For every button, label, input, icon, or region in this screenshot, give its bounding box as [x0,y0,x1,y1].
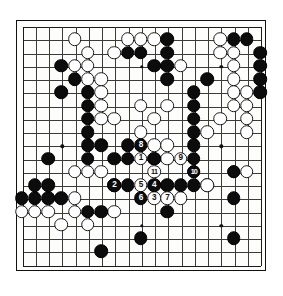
black-stone[interactable] [28,178,42,192]
black-stone[interactable] [81,205,95,219]
white-stone[interactable] [41,205,55,219]
white-stone[interactable] [227,46,241,60]
white-stone[interactable] [161,99,175,113]
white-stone[interactable] [108,205,122,219]
white-stone[interactable] [134,99,148,113]
move-stone-6[interactable]: 6 [134,191,148,205]
white-stone[interactable] [214,46,228,60]
white-stone[interactable] [227,72,241,86]
move-stone-1[interactable]: 1 [134,152,148,166]
move-stone-5[interactable]: 5 [134,178,148,192]
black-stone[interactable] [134,46,148,60]
black-stone[interactable] [81,152,95,166]
white-stone[interactable] [28,205,42,219]
white-stone[interactable] [81,165,95,179]
black-stone[interactable] [15,191,29,205]
white-stone[interactable] [68,165,82,179]
black-stone[interactable] [55,85,69,99]
black-stone[interactable] [108,152,122,166]
white-stone[interactable] [121,32,135,46]
black-stone[interactable] [41,152,55,166]
black-stone[interactable] [121,46,135,60]
black-stone[interactable] [28,191,42,205]
black-stone[interactable] [41,178,55,192]
white-stone[interactable] [108,46,122,60]
black-stone[interactable] [81,138,95,152]
black-stone[interactable] [161,32,175,46]
white-stone[interactable] [161,138,175,152]
white-stone[interactable] [147,112,161,126]
black-stone[interactable] [227,165,241,179]
black-stone[interactable] [94,205,108,219]
black-stone[interactable] [81,85,95,99]
white-stone[interactable] [147,32,161,46]
black-stone[interactable] [187,99,201,113]
white-stone[interactable] [94,85,108,99]
black-stone[interactable] [161,178,175,192]
black-stone[interactable] [81,99,95,113]
white-stone[interactable] [81,46,95,60]
white-stone[interactable] [240,85,254,99]
white-stone[interactable] [174,191,188,205]
black-stone[interactable] [200,72,214,86]
black-stone[interactable] [41,191,55,205]
white-stone[interactable] [68,205,82,219]
white-stone[interactable] [68,32,82,46]
black-stone[interactable] [55,59,69,73]
move-stone-7[interactable]: 7 [161,191,175,205]
black-stone[interactable] [121,138,135,152]
white-stone[interactable] [227,85,241,99]
black-stone[interactable] [161,46,175,60]
move-stone-2[interactable]: 2 [108,178,122,192]
black-stone[interactable] [121,152,135,166]
white-stone[interactable] [227,99,241,113]
white-stone[interactable] [81,218,95,232]
white-stone[interactable] [81,72,95,86]
white-stone[interactable] [81,59,95,73]
move-stone-3[interactable]: 3 [147,191,161,205]
white-stone[interactable] [240,112,254,126]
white-stone[interactable] [240,165,254,179]
black-stone[interactable] [187,85,201,99]
black-stone[interactable] [253,59,267,73]
white-stone[interactable] [94,72,108,86]
white-stone[interactable] [161,152,175,166]
black-stone[interactable] [134,231,148,245]
black-stone[interactable] [81,112,95,126]
move-stone-9[interactable]: 9 [174,152,188,166]
black-stone[interactable] [253,46,267,60]
black-stone[interactable] [187,178,201,192]
move-stone-4[interactable]: 4 [147,178,161,192]
move-stone-11[interactable]: 11 [147,165,161,179]
white-stone[interactable] [240,125,254,139]
white-stone[interactable] [134,32,148,46]
black-stone[interactable] [187,152,201,166]
white-stone[interactable] [214,32,228,46]
white-stone[interactable] [200,178,214,192]
black-stone[interactable] [187,125,201,139]
black-stone[interactable] [253,72,267,86]
white-stone[interactable] [108,112,122,126]
black-stone[interactable] [161,72,175,86]
black-stone[interactable] [240,32,254,46]
black-stone[interactable] [227,191,241,205]
black-stone[interactable] [55,191,69,205]
black-stone[interactable] [147,59,161,73]
black-stone[interactable] [81,125,95,139]
black-stone[interactable] [94,138,108,152]
move-stone-8[interactable]: 8 [134,138,148,152]
white-stone[interactable] [94,165,108,179]
white-stone[interactable] [68,59,82,73]
black-stone[interactable] [147,152,161,166]
black-stone[interactable] [187,112,201,126]
black-stone[interactable] [187,138,201,152]
black-stone[interactable] [68,72,82,86]
black-stone[interactable] [253,85,267,99]
black-stone[interactable] [94,244,108,258]
white-stone[interactable] [68,191,82,205]
white-stone[interactable] [15,205,29,219]
white-stone[interactable] [55,218,69,232]
black-stone[interactable] [227,231,241,245]
white-stone[interactable] [147,138,161,152]
black-stone[interactable] [121,178,135,192]
